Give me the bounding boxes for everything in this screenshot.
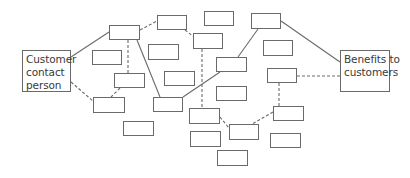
empty-box-r [190, 131, 221, 147]
empty-box-u [273, 106, 304, 121]
left-node-line-1: Customer [26, 53, 68, 66]
network-diagram: Customer contact person Benefits to cust… [0, 0, 410, 178]
empty-box-c [92, 50, 122, 65]
dashed-connector-u-s [252, 112, 273, 124]
empty-box-t [217, 150, 248, 166]
empty-box-m [193, 33, 223, 49]
empty-box-w [216, 86, 247, 101]
empty-box-v [270, 133, 301, 148]
left-node-line-2: contact [26, 66, 68, 79]
dashed-connector-e-g [111, 88, 120, 97]
solid-connector-l-n [238, 29, 258, 57]
dashed-connector-customer-g [71, 82, 93, 101]
right-node-line-1: Benefits to [344, 53, 387, 66]
dashed-connector-a-b [140, 21, 157, 30]
empty-box-o [263, 40, 293, 56]
empty-box-s [229, 124, 259, 140]
empty-box-q [189, 108, 220, 124]
empty-box-d [148, 44, 179, 60]
empty-box-e [114, 73, 145, 88]
empty-box-a [109, 25, 140, 40]
empty-box-k [204, 11, 234, 26]
empty-box-g [93, 97, 125, 113]
dashed-connector-q-s [220, 117, 229, 128]
empty-box-f [164, 71, 195, 86]
empty-box-l [251, 13, 281, 29]
benefits-to-customers-node: Benefits to customers [340, 50, 390, 92]
empty-box-h [153, 97, 183, 112]
empty-box-p [267, 68, 297, 83]
customer-contact-person-node: Customer contact person [22, 50, 71, 92]
empty-box-b [157, 15, 187, 30]
empty-box-i [123, 121, 154, 136]
empty-box-n [216, 57, 247, 72]
left-node-line-3: person [26, 79, 68, 92]
right-node-line-2: customers [344, 66, 387, 79]
